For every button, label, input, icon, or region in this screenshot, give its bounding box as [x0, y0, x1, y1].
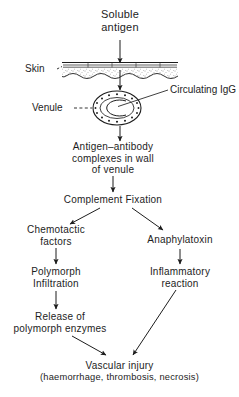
- label-skin: Skin: [25, 63, 44, 75]
- circulating-igg-line-1: Circulating: [170, 84, 217, 95]
- node-release-polymorph-enzymes: Release of polymorph enzymes: [0, 311, 120, 334]
- vascular-injury-line-2: (haemorrhage, thrombosis, necrosis): [0, 372, 239, 383]
- inflammatory-line-2: reaction: [130, 278, 230, 290]
- chemotactic-line-2: factors: [6, 236, 106, 248]
- release-line-1: Release of: [0, 311, 120, 323]
- node-inflammatory-reaction: Inflammatory reaction: [130, 266, 230, 289]
- polymorph-line-2: Infiltration: [6, 278, 106, 290]
- circulating-igg-line-2: IgG antibody: [220, 84, 239, 95]
- node-chemotactic-factors: Chemotactic factors: [6, 224, 106, 247]
- node-vascular-injury: Vascular injury (haemorrhage, thrombosis…: [0, 360, 239, 382]
- skin-leader: [57, 67, 62, 70]
- node-anaphylatoxin: Anaphylatoxin: [130, 234, 230, 246]
- node-complement-fixation: Complement Fixation: [30, 194, 196, 206]
- arrow-inflammatory-to-vascular: [133, 290, 176, 355]
- polymorph-line-1: Polymorph: [6, 266, 106, 278]
- skin-illustration: [62, 63, 178, 79]
- vascular-injury-line-1: Vascular injury: [0, 360, 239, 372]
- release-line-2: polymorph enzymes: [0, 323, 120, 335]
- node-soluble-antigen: Soluble antigen: [70, 8, 170, 33]
- complexes-line-3: of venule: [38, 164, 188, 176]
- complexes-line-2: complexes in wall: [38, 153, 188, 165]
- arrow-complement-to-anaphylatoxin: [132, 208, 163, 230]
- node-polymorph-infiltration: Polymorph Infiltration: [6, 266, 106, 289]
- complexes-line-1: Antigen–antibody: [38, 141, 188, 153]
- soluble-antigen-line-1: Soluble: [70, 8, 170, 21]
- arrow-release-to-vascular: [72, 336, 106, 355]
- igg-leader: [118, 90, 168, 107]
- chemotactic-line-1: Chemotactic: [6, 224, 106, 236]
- arrow-complement-to-chemotactic: [70, 208, 100, 224]
- diagram-canvas: Soluble antigen Skin Venule Circulating …: [0, 0, 239, 397]
- soluble-antigen-line-2: antigen: [70, 21, 170, 34]
- node-antigen-antibody-complexes: Antigen–antibody complexes in wall of ve…: [38, 141, 188, 176]
- label-venule: Venule: [32, 102, 63, 114]
- venule-illustration: [93, 91, 141, 125]
- inflammatory-line-1: Inflammatory: [130, 266, 230, 278]
- label-circulating-igg: Circulating IgG antibody: [170, 84, 239, 96]
